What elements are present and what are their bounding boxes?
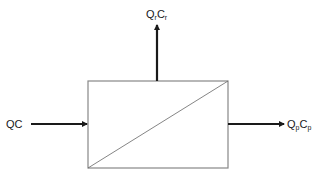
retentate-label: QrCr <box>146 8 167 24</box>
membrane-box <box>88 81 228 168</box>
membrane-diagonal <box>88 81 228 168</box>
retentate-c: C <box>157 8 165 20</box>
inlet-label: QC <box>6 118 23 130</box>
inlet-q: Q <box>6 118 15 130</box>
retentate-c-sub: r <box>165 14 167 21</box>
diagram-canvas <box>0 0 327 177</box>
permeate-c-sub: p <box>307 124 311 131</box>
inlet-c: C <box>15 118 23 130</box>
permeate-q: Q <box>287 118 296 130</box>
retentate-q: Q <box>146 8 155 20</box>
permeate-label: QpCp <box>287 118 311 134</box>
